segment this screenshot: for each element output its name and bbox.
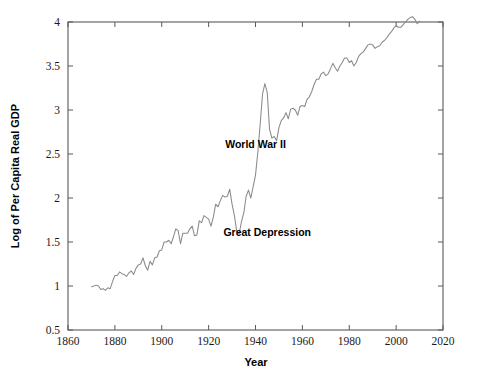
y-tick-label: 0.5	[46, 324, 61, 336]
x-tick-label: 1900	[150, 335, 173, 347]
x-tick-label: 1960	[291, 335, 314, 347]
y-tick-label: 1	[54, 280, 60, 292]
gdp-line-chart: 186018801900192019401960198020002020 0.5…	[0, 0, 480, 373]
x-axis-tick-labels: 186018801900192019401960198020002020	[57, 335, 455, 347]
chart-figure: 186018801900192019401960198020002020 0.5…	[0, 0, 480, 373]
y-axis-title: Log of Per Capita Real GDP	[9, 104, 21, 248]
y-axis-tick-labels: 0.511.522.533.54	[46, 16, 61, 336]
y-tick-label: 3	[54, 104, 60, 116]
y-tick-label: 2	[54, 192, 60, 204]
annotation-world-war-ii: World War II	[225, 138, 286, 150]
y-tick-label: 4	[54, 16, 60, 28]
annotation-great-depression: Great Depression	[223, 226, 311, 238]
x-axis-title: Year	[244, 356, 268, 368]
y-tick-label: 1.5	[46, 236, 61, 248]
chart-annotations: World War IIGreat Depression	[223, 138, 311, 238]
y-tick-label: 3.5	[46, 60, 61, 72]
x-tick-label: 1880	[103, 335, 126, 347]
x-tick-label: 1980	[338, 335, 361, 347]
x-tick-label: 1920	[197, 335, 220, 347]
series-polyline	[91, 17, 419, 291]
x-tick-label: 2000	[385, 335, 408, 347]
x-tick-label: 2020	[432, 335, 455, 347]
x-tick-label: 1860	[57, 335, 80, 347]
y-tick-label: 2.5	[46, 148, 61, 160]
x-tick-label: 1940	[244, 335, 267, 347]
data-series-line	[91, 17, 419, 291]
